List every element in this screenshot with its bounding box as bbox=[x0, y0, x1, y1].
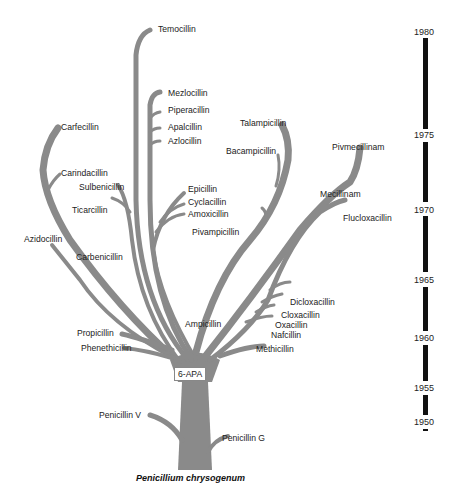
timeline-bar-segment bbox=[423, 395, 428, 415]
label-epicillin: Epicillin bbox=[188, 184, 217, 194]
timeline-bar-segment bbox=[423, 216, 428, 272]
label-piperacillin: Piperacillin bbox=[168, 105, 210, 115]
label-mecillinam: Mecillinam bbox=[320, 189, 361, 199]
label-temocillin: Temocillin bbox=[158, 24, 196, 34]
penicillin-v-branch bbox=[150, 415, 182, 440]
label-dicloxacillin: Dicloxacillin bbox=[290, 297, 335, 307]
label-bacampicillin: Bacampicillin bbox=[226, 146, 276, 156]
label-talampicillin: Talampicillin bbox=[240, 118, 286, 128]
label-ampicillin: Ampicillin bbox=[185, 319, 221, 329]
timeline-bar-segment bbox=[423, 38, 428, 129]
label-oxacillin: Oxacillin bbox=[275, 320, 307, 330]
label-carfecillin: Carfecillin bbox=[61, 122, 99, 132]
year-1960: 1960 bbox=[414, 333, 434, 343]
label-phenethicillin: Phenethicillin bbox=[81, 343, 132, 353]
timeline-bar-segment bbox=[423, 287, 428, 331]
label-methicillin: Methicillin bbox=[256, 344, 294, 354]
label-flucloxacillin: Flucloxacillin bbox=[343, 213, 392, 223]
label-cyclacillin: Cyclacillin bbox=[188, 197, 226, 207]
year-1965: 1965 bbox=[414, 275, 434, 285]
label-apalcillin: Apalcillin bbox=[168, 122, 202, 132]
label-pivampicillin: Pivampicillin bbox=[192, 227, 239, 237]
label-nafcillin: Nafcillin bbox=[271, 330, 301, 340]
timeline-bar-segment bbox=[423, 345, 428, 381]
label-sulbenicillin: Sulbenicillin bbox=[79, 182, 124, 192]
year-1950: 1950 bbox=[414, 417, 434, 427]
label-carindacillin: Carindacillin bbox=[61, 168, 108, 178]
year-1980: 1980 bbox=[414, 27, 434, 37]
year-1975: 1975 bbox=[414, 130, 434, 140]
label-propicillin: Propicillin bbox=[77, 328, 114, 338]
timeline-bar-segment bbox=[423, 429, 428, 431]
trunk-branch bbox=[178, 382, 212, 470]
caption-root-organism: Penicillium chrysogenum bbox=[136, 473, 245, 483]
label-amoxicillin: Amoxicillin bbox=[188, 209, 229, 219]
label-carbenicillin: Carbenicillin bbox=[76, 252, 123, 262]
year-1955: 1955 bbox=[414, 383, 434, 393]
label-penicillin-v: Penicillin V bbox=[99, 410, 141, 420]
label-penicillin-g: Penicillin G bbox=[222, 433, 265, 443]
timeline-bar-segment bbox=[423, 142, 428, 202]
label-azidocillin: Azidocillin bbox=[24, 234, 62, 244]
ampicillin-branch bbox=[196, 125, 288, 352]
label-ticarcillin: Ticarcillin bbox=[72, 205, 108, 215]
tree-branches bbox=[0, 0, 450, 499]
year-1970: 1970 bbox=[414, 205, 434, 215]
label-mezlocillin: Mezlocillin bbox=[168, 88, 208, 98]
penicillin-tree-diagram: Temocillin Mezlocillin Piperacillin Apal… bbox=[0, 0, 450, 499]
label-pivmecillinam: Pivmecillinam bbox=[332, 142, 385, 152]
label-azlocillin: Azlocillin bbox=[168, 136, 201, 146]
label-cloxacillin: Cloxacillin bbox=[281, 310, 320, 320]
label-6-apa: 6-APA bbox=[174, 367, 206, 381]
